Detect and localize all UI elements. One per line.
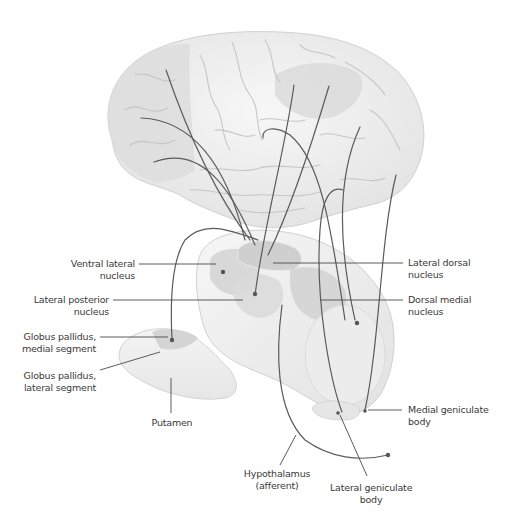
label-dorsal-medial-nucleus: Dorsal medial nucleus	[408, 294, 471, 318]
label-line: nucleus	[408, 269, 470, 281]
label-lateral-dorsal-nucleus: Lateral dorsal nucleus	[408, 257, 470, 281]
label-line: nucleus	[20, 306, 109, 318]
label-globus-pallidus-medial: Globus pallidus, medial segment	[8, 331, 96, 355]
cerebral-cortex	[108, 32, 424, 228]
label-line: Hypothalamus	[240, 468, 314, 480]
label-line: nucleus	[408, 306, 471, 318]
label-line: Lateral posterior	[20, 294, 109, 306]
label-globus-pallidus-lateral: Globus pallidus, lateral segment	[8, 370, 96, 394]
label-line: Putamen	[140, 417, 204, 429]
label-line: medial segment	[8, 343, 96, 355]
label-lateral-geniculate-body: Lateral geniculate body	[330, 482, 412, 506]
label-line: (afferent)	[240, 480, 314, 492]
label-hypothalamus-afferent: Hypothalamus (afferent)	[240, 468, 314, 492]
label-line: nucleus	[60, 270, 135, 282]
label-line: Ventral lateral	[60, 258, 135, 270]
label-line: Globus pallidus,	[8, 370, 96, 382]
label-line: Lateral dorsal	[408, 257, 470, 269]
label-line: Medial geniculate	[408, 404, 489, 416]
label-line: lateral segment	[8, 382, 96, 394]
label-putamen: Putamen	[140, 417, 204, 429]
label-lateral-posterior-nucleus: Lateral posterior nucleus	[20, 294, 109, 318]
label-line: body	[330, 494, 412, 506]
label-line: Lateral geniculate	[330, 482, 412, 494]
label-line: Dorsal medial	[408, 294, 471, 306]
label-ventral-lateral-nucleus: Ventral lateral nucleus	[60, 258, 135, 282]
label-medial-geniculate-body: Medial geniculate body	[408, 404, 489, 428]
label-line: Globus pallidus,	[8, 331, 96, 343]
label-line: body	[408, 416, 489, 428]
